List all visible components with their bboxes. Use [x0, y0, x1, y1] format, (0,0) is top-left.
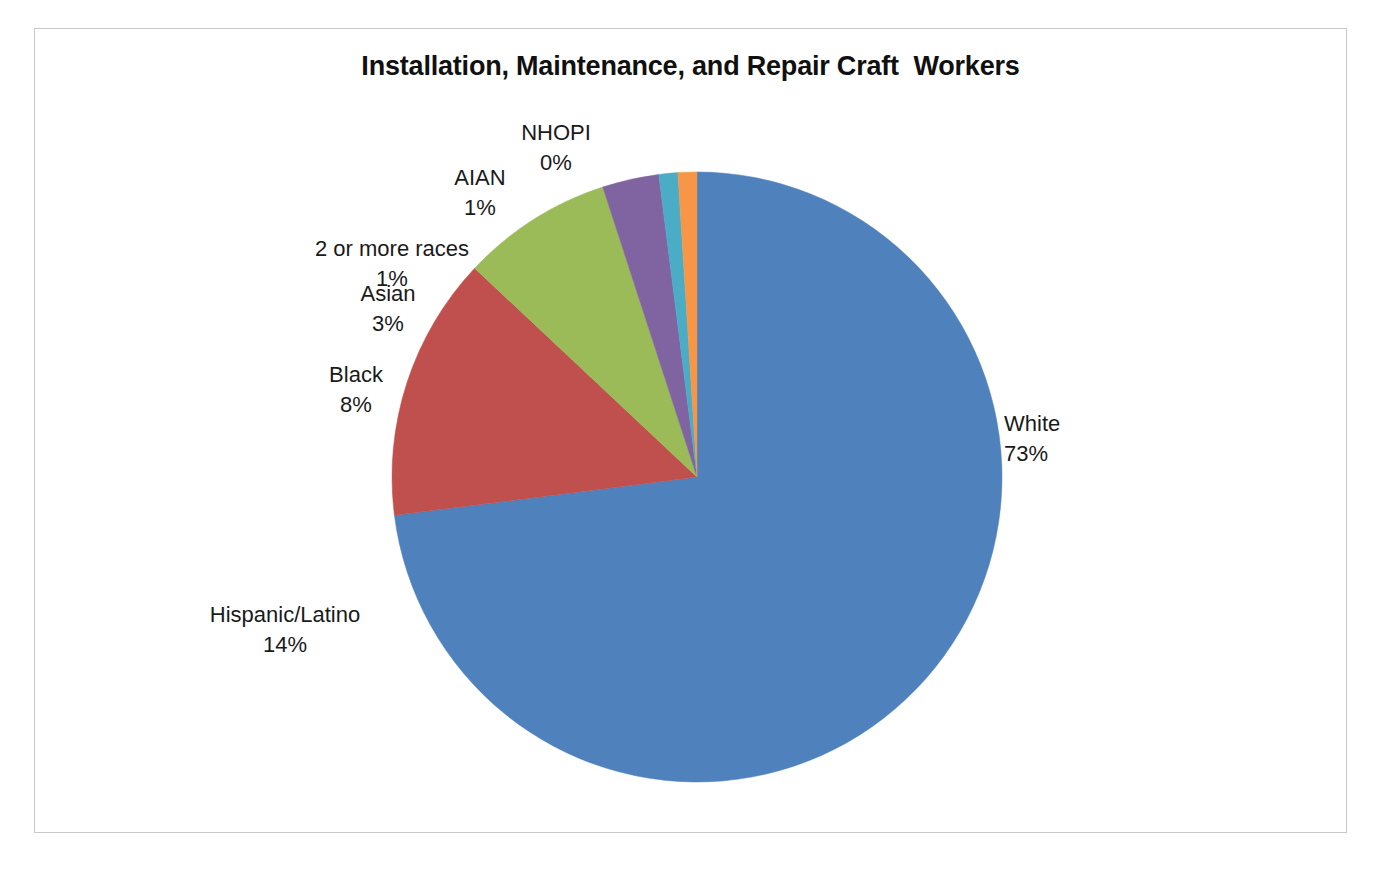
pie-label-nhopi-value: 0%: [456, 148, 656, 178]
pie-label-black-name: Black: [256, 360, 456, 390]
pie-label-two-or-more-races-value: 1%: [252, 264, 532, 294]
pie-label-black: Black 8%: [256, 360, 456, 420]
chart-title: Installation, Maintenance, and Repair Cr…: [35, 51, 1346, 82]
pie-label-hispanic-latino-name: Hispanic/Latino: [140, 600, 430, 630]
pie-label-hispanic-latino: Hispanic/Latino 14%: [140, 600, 430, 660]
pie-label-nhopi: NHOPI 0%: [456, 118, 656, 178]
pie-label-aian-value: 1%: [380, 193, 580, 223]
pie-label-hispanic-latino-value: 14%: [140, 630, 430, 660]
pie-label-asian-value: 3%: [288, 309, 488, 339]
pie-label-white-value: 73%: [1004, 439, 1204, 469]
pie-label-white: White 73%: [1004, 409, 1204, 469]
pie-label-black-value: 8%: [256, 390, 456, 420]
pie-label-two-or-more-races-name: 2 or more races: [252, 234, 532, 264]
pie-label-two-or-more-races: 2 or more races 1%: [252, 234, 532, 294]
pie-label-nhopi-name: NHOPI: [456, 118, 656, 148]
pie-label-white-name: White: [1004, 409, 1204, 439]
